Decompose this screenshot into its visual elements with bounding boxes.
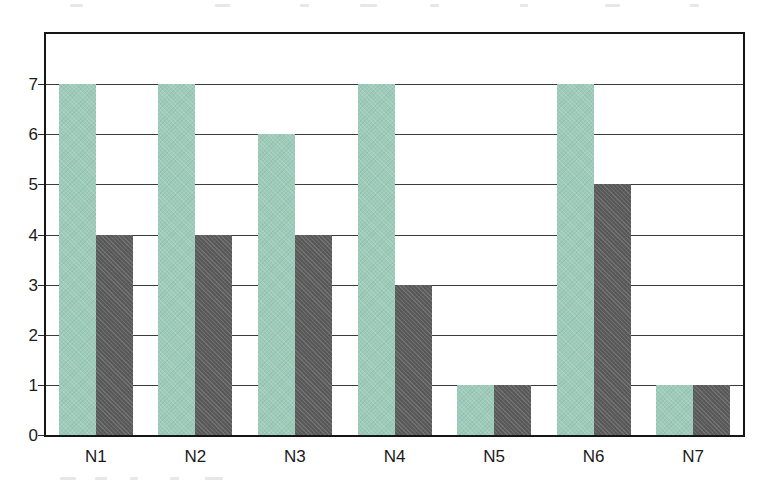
- y-axis-label: 1: [14, 376, 38, 393]
- gridline: [46, 134, 743, 135]
- y-axis-label: 7: [14, 76, 38, 93]
- y-axis-label: 2: [14, 326, 38, 343]
- bar-N5-series-1: [457, 385, 494, 435]
- x-axis-label-N6: N6: [583, 447, 605, 467]
- bar-N3-series-2: [295, 235, 332, 436]
- y-axis-label: 4: [14, 226, 38, 243]
- plot-area: [44, 32, 745, 437]
- bar-N2-series-2: [195, 235, 232, 436]
- bar-N7-series-1: [656, 385, 693, 435]
- gridline: [46, 235, 743, 236]
- bar-N2-series-1: [158, 84, 195, 435]
- bar-N5-series-2: [494, 385, 531, 435]
- bar-N6-series-2: [594, 184, 631, 435]
- y-axis-label: 5: [14, 176, 38, 193]
- x-axis-label-N3: N3: [284, 447, 306, 467]
- bar-N6-series-1: [557, 84, 594, 435]
- bar-N7-series-2: [693, 385, 730, 435]
- x-axis-label-N4: N4: [384, 447, 406, 467]
- x-axis-label-N2: N2: [184, 447, 206, 467]
- bar-N3-series-1: [258, 134, 295, 435]
- bar-N4-series-2: [395, 285, 432, 435]
- bar-N1-series-1: [59, 84, 96, 435]
- bar-N1-series-2: [96, 235, 133, 436]
- y-axis-label: 6: [14, 126, 38, 143]
- bar-N4-series-1: [358, 84, 395, 435]
- y-axis-label: 3: [14, 276, 38, 293]
- y-axis-label: 0: [14, 427, 38, 444]
- gridline: [46, 84, 743, 85]
- x-axis-label-N5: N5: [483, 447, 505, 467]
- gridline: [46, 184, 743, 185]
- x-axis-label-N7: N7: [682, 447, 704, 467]
- bar-chart: 01234567 N1N2N3N4N5N6N7: [0, 0, 769, 488]
- x-axis-label-N1: N1: [85, 447, 107, 467]
